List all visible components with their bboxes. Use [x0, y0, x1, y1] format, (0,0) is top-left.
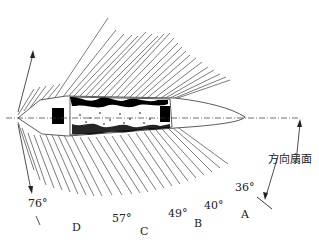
lower-arrowhead-icon	[28, 186, 33, 194]
lower-bound-arrow	[18, 124, 31, 190]
fragment-direction-diagram: 方向扇面 76° 57° 49° 40° 36° D C B A	[0, 0, 319, 242]
fuze-block	[52, 108, 64, 124]
fan-end-tick	[257, 197, 272, 209]
base-block	[160, 106, 170, 122]
zone-label-c: C	[140, 226, 148, 237]
angle-label-36: 36°	[235, 182, 255, 193]
angle-label-76: 76°	[28, 198, 48, 209]
upper-arrowhead-icon	[30, 50, 35, 58]
zone-label-d: D	[72, 222, 81, 233]
fan-arrowhead-down-icon	[263, 192, 268, 200]
tick-76	[36, 216, 40, 225]
angle-label-40: 40°	[204, 200, 224, 211]
zone-label-a: A	[241, 209, 249, 220]
angle-label-57: 57°	[112, 213, 132, 224]
fragment-layer-lower	[72, 124, 170, 135]
zone-label-b: B	[194, 218, 202, 229]
direction-fan-label: 方向扇面	[268, 154, 312, 165]
fan-arrowhead-up-icon	[297, 119, 302, 127]
diagram-canvas	[0, 0, 319, 242]
angle-label-49: 49°	[168, 208, 188, 219]
